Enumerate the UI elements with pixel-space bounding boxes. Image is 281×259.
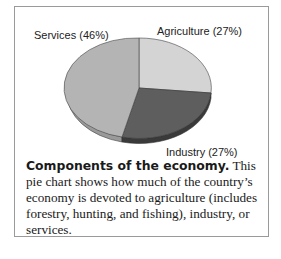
industry-label: Industry (27%)	[166, 146, 238, 158]
services-label: Services (46%)	[34, 29, 109, 41]
agriculture-slice	[139, 38, 211, 93]
figure-caption: Components of the economy. This pie char…	[26, 158, 262, 238]
agriculture-label: Agriculture (27%)	[157, 25, 242, 37]
caption-title: Components of the economy.	[26, 158, 229, 173]
